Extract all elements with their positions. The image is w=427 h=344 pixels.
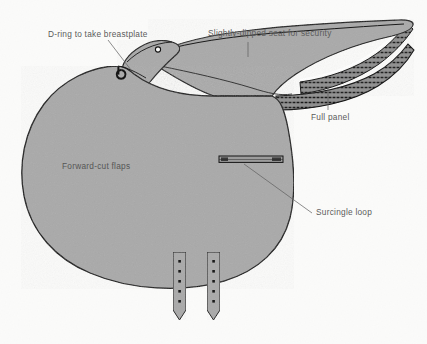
surcingle-loop-keeper-right bbox=[272, 157, 281, 161]
billet-hole bbox=[212, 260, 215, 263]
billet-hole bbox=[212, 280, 215, 283]
billet-strap bbox=[207, 252, 220, 320]
surcingle-loop bbox=[219, 156, 283, 162]
forward-cut-flap bbox=[22, 66, 294, 288]
label-full-panel: Full panel bbox=[311, 112, 349, 122]
billet-strap bbox=[173, 252, 186, 320]
billet-hole bbox=[178, 270, 181, 273]
label-forward-cut-flaps: Forward-cut flaps bbox=[62, 161, 130, 171]
label-d-ring: D-ring to take breastplate bbox=[48, 29, 148, 39]
billet-hole bbox=[178, 280, 181, 283]
flap-body bbox=[22, 66, 294, 288]
pommel-stud-icon bbox=[155, 47, 160, 52]
billet-hole bbox=[212, 270, 215, 273]
saddle-diagram-canvas: D-ring to take breastplate Slightly-dipp… bbox=[0, 0, 427, 344]
billet-hole bbox=[212, 290, 215, 293]
saddle-illustration: D-ring to take breastplate Slightly-dipp… bbox=[0, 0, 427, 344]
billet-hole bbox=[178, 300, 181, 303]
label-seat: Slightly-dipped seat for security bbox=[208, 28, 332, 38]
label-surcingle-loop: Surcingle loop bbox=[316, 207, 372, 217]
billet-hole bbox=[178, 290, 181, 293]
surcingle-loop-keeper-left bbox=[221, 157, 228, 161]
billet-hole bbox=[178, 260, 181, 263]
billet-hole bbox=[212, 300, 215, 303]
